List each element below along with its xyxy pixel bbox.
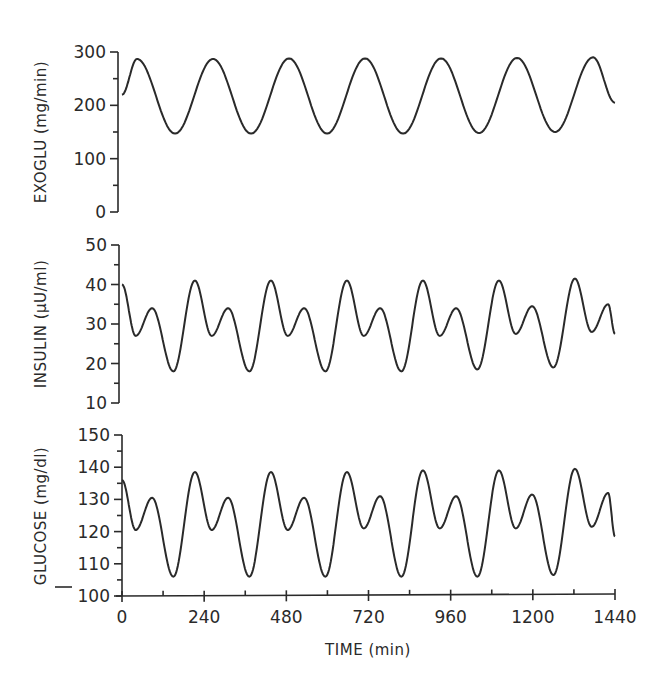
y-tick-label: 140 <box>78 457 110 477</box>
y-tick-label: 130 <box>78 489 110 509</box>
figure: 0100200300 1020304050 100110120130140150… <box>0 0 656 685</box>
x-tick-label: 0 <box>117 607 128 627</box>
y-tick-label: 200 <box>74 95 106 115</box>
exoglu-curve <box>122 57 615 133</box>
y-tick-label: 40 <box>85 275 107 295</box>
chart-svg: 0100200300 1020304050 100110120130140150… <box>0 0 656 685</box>
y-tick-label: 110 <box>78 554 110 574</box>
y-tick-label: 20 <box>85 354 107 374</box>
glucose-curve <box>122 469 615 577</box>
y-tick-label: 300 <box>74 42 106 62</box>
exoglu-axis-title: EXOGLU (mg/min) <box>32 61 50 203</box>
y-tick-label: 150 <box>78 425 110 445</box>
glucose-panel: 100110120130140150024048072096012001440 <box>78 425 637 627</box>
x-tick-label: 240 <box>188 607 220 627</box>
x-tick-label: 1440 <box>593 607 636 627</box>
y-tick-label: 50 <box>85 235 107 255</box>
x-tick-label: 1200 <box>511 607 554 627</box>
x-tick-label: 720 <box>352 607 384 627</box>
exoglu-panel: 0100200300 <box>74 42 615 222</box>
y-tick-label: 10 <box>85 393 107 413</box>
y-tick-label: 120 <box>78 522 110 542</box>
insulin-panel: 1020304050 <box>85 235 615 413</box>
y-tick-label: 30 <box>85 314 107 334</box>
y-tick-label: 100 <box>74 149 106 169</box>
glucose-axis-title: GLUCOSE (mg/dl) <box>32 447 50 585</box>
insulin-axis-title: INSULIN (µU/ml) <box>32 260 50 388</box>
insulin-curve <box>122 279 615 372</box>
x-tick-label: 480 <box>270 607 302 627</box>
y-tick-label: 100 <box>78 586 110 606</box>
x-axis <box>116 594 615 596</box>
x-tick-label: 960 <box>434 607 466 627</box>
y-tick-label: 0 <box>95 202 106 222</box>
time-axis-title: TIME (min) <box>324 641 411 659</box>
